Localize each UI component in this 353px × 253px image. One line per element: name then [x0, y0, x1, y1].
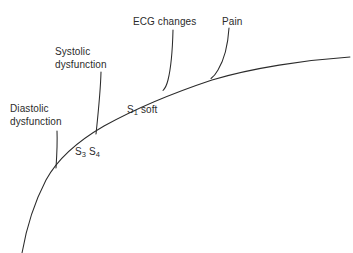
annotation-label-systolic-dysfunction: Systolicdysfunction — [55, 46, 107, 71]
annotation-label-s1-soft: S1 soft — [127, 104, 157, 117]
s3-subscript: 3 — [82, 150, 86, 159]
cascade-curve — [22, 57, 350, 253]
ischemic-cascade-diagram: Diastolicdysfunction Systolicdysfunction… — [0, 0, 353, 253]
annotation-label-systolic-line2: dysfunction — [55, 59, 107, 70]
leader-line-diastolic — [56, 131, 57, 168]
annotation-label-pain: Pain — [222, 16, 242, 29]
s1-prefix: S — [127, 104, 134, 115]
leader-line-ecg-changes — [163, 30, 173, 91]
annotation-label-s3-s4: S3 S4 — [75, 146, 100, 159]
s4-subscript: 4 — [96, 150, 100, 159]
annotation-label-diastolic-dysfunction: Diastolicdysfunction — [10, 103, 62, 128]
s1-soft-suffix: soft — [138, 104, 157, 115]
annotation-label-systolic-line1: Systolic — [55, 46, 90, 57]
annotation-label-diastolic-line1: Diastolic — [10, 103, 49, 114]
annotation-label-diastolic-line2: dysfunction — [10, 116, 62, 127]
leader-line-pain — [211, 28, 229, 79]
annotation-label-ecg-changes: ECG changes — [133, 16, 196, 29]
s3-prefix: S — [75, 146, 82, 157]
s3-s4-separator: S — [86, 146, 96, 157]
s1-subscript: 1 — [134, 108, 138, 117]
leader-line-systolic — [96, 72, 101, 134]
